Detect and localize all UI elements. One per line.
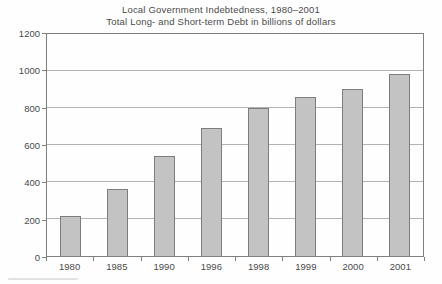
x-tick-mark-3 xyxy=(188,257,189,261)
y-tick-mark-1000 xyxy=(42,70,46,71)
x-tick-mark-6 xyxy=(330,257,331,261)
y-tick-label-400: 400 xyxy=(0,177,40,188)
x-tick-mark-7 xyxy=(377,257,378,261)
y-axis: 020040060080010001200 xyxy=(0,33,40,257)
y-tick-label-0: 0 xyxy=(0,252,40,263)
gridline-y-600 xyxy=(47,144,423,145)
x-tick-mark-4 xyxy=(235,257,236,261)
x-tick-mark-1 xyxy=(93,257,94,261)
bar-1998 xyxy=(248,108,269,256)
bar-1985 xyxy=(107,189,128,256)
x-tick-label-1990: 1990 xyxy=(154,261,175,272)
bar-2001 xyxy=(389,74,410,256)
gridline-y-200 xyxy=(47,218,423,219)
chart: Local Government Indebtedness, 1980–2001… xyxy=(0,0,442,284)
chart-subtitle: Total Long- and Short-term Debt in billi… xyxy=(0,16,442,28)
y-tick-mark-600 xyxy=(42,145,46,146)
x-axis: 19801985199019961998199920002001 xyxy=(46,261,424,275)
x-tick-label-1996: 1996 xyxy=(201,261,222,272)
plot-area xyxy=(46,33,424,257)
x-tick-mark-8 xyxy=(424,257,425,261)
x-tick-label-1998: 1998 xyxy=(248,261,269,272)
y-tick-label-1000: 1000 xyxy=(0,65,40,76)
gridline-y-400 xyxy=(47,181,423,182)
bar-1980 xyxy=(60,216,81,256)
x-tick-mark-5 xyxy=(282,257,283,261)
x-tick-label-1999: 1999 xyxy=(295,261,316,272)
scan-artifact xyxy=(8,278,78,280)
bar-1996 xyxy=(201,128,222,256)
x-tick-label-2001: 2001 xyxy=(390,261,411,272)
y-tick-label-1200: 1200 xyxy=(0,28,40,39)
x-tick-label-1980: 1980 xyxy=(59,261,80,272)
chart-title: Local Government Indebtedness, 1980–2001 xyxy=(0,4,442,16)
y-tick-mark-200 xyxy=(42,220,46,221)
x-tick-mark-0 xyxy=(46,257,47,261)
bar-2000 xyxy=(342,89,363,256)
y-tick-mark-800 xyxy=(42,108,46,109)
x-tick-label-2000: 2000 xyxy=(343,261,364,272)
y-tick-label-600: 600 xyxy=(0,140,40,151)
y-tick-mark-400 xyxy=(42,182,46,183)
x-tick-mark-2 xyxy=(141,257,142,261)
gridline-y-1000 xyxy=(47,70,423,71)
bar-1999 xyxy=(295,97,316,256)
gridline-y-800 xyxy=(47,107,423,108)
x-tick-label-1985: 1985 xyxy=(106,261,127,272)
y-tick-mark-1200 xyxy=(42,33,46,34)
y-tick-label-200: 200 xyxy=(0,214,40,225)
bar-1990 xyxy=(154,156,175,256)
y-tick-label-800: 800 xyxy=(0,102,40,113)
